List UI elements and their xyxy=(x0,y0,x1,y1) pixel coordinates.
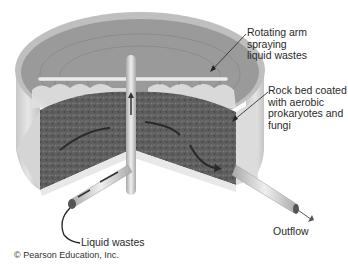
label-outflow: Outflow xyxy=(273,226,309,238)
label-liquid-wastes: Liquid wastes xyxy=(81,237,145,249)
copyright-credit: © Pearson Education, Inc. xyxy=(14,250,119,260)
label-rock-bed: Rock bed coated with aerobic prokaryotes… xyxy=(268,85,347,131)
label-rotating-arm: Rotating arm spraying liquid wastes xyxy=(247,27,348,62)
outflow-pipe xyxy=(232,165,314,222)
liquid-wastes-leader xyxy=(62,208,80,243)
